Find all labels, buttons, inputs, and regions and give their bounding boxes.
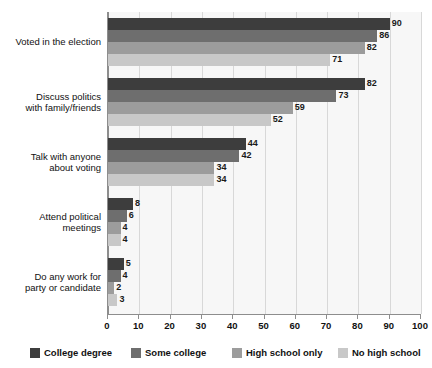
- legend-label: Some college: [145, 348, 206, 358]
- bar-row: 42: [108, 150, 421, 162]
- legend-swatch-icon: [131, 348, 141, 358]
- tick-mark-0: [107, 314, 108, 319]
- legend-label: High school only: [246, 348, 323, 358]
- plot-area: 90868271827359524442343486445423: [107, 12, 421, 314]
- bar: [108, 42, 365, 54]
- bar-row: 82: [108, 42, 421, 54]
- tick-label-40: 40: [219, 320, 245, 331]
- bar: [108, 222, 121, 234]
- bar-row: 90: [108, 18, 421, 30]
- bar-value-label: 2: [114, 281, 121, 293]
- tick-mark-50: [264, 314, 265, 319]
- tick-label-10: 10: [125, 320, 151, 331]
- tick-mark-40: [232, 314, 233, 319]
- tick-label-60: 60: [282, 320, 308, 331]
- category-label: Attend political meetings: [0, 211, 101, 234]
- tick-mark-20: [170, 314, 171, 319]
- bar-value-label: 73: [336, 89, 348, 101]
- bar-value-label: 82: [365, 77, 377, 89]
- tick-label-70: 70: [313, 320, 339, 331]
- bar-group: 8644: [108, 198, 421, 246]
- bar-row: 59: [108, 102, 421, 114]
- bar-value-label: 82: [365, 41, 377, 53]
- category-label: Do any work for party or candidate: [0, 271, 101, 294]
- tick-label-0: 0: [94, 320, 120, 331]
- tick-mark-100: [420, 314, 421, 319]
- bar-value-label: 8: [133, 197, 140, 209]
- bar: [108, 78, 365, 90]
- gridline-100: [421, 12, 422, 314]
- legend-item[interactable]: High school only: [232, 348, 323, 358]
- bar: [108, 162, 214, 174]
- bar-row: 5: [108, 258, 421, 270]
- bar-group: 82735952: [108, 78, 421, 126]
- bar-value-label: 44: [246, 137, 258, 149]
- bar-row: 82: [108, 78, 421, 90]
- tick-mark-60: [295, 314, 296, 319]
- bars-layer: 90868271827359524442343486445423: [108, 12, 421, 314]
- legend-swatch-icon: [232, 348, 242, 358]
- bar-value-label: 52: [271, 113, 283, 125]
- bar-value-label: 90: [390, 17, 402, 29]
- bar-group: 90868271: [108, 18, 421, 66]
- bar-value-label: 4: [121, 233, 128, 245]
- tick-label-100: 100: [407, 320, 432, 331]
- bar-value-label: 4: [121, 221, 128, 233]
- bar-value-label: 59: [293, 101, 305, 113]
- tick-mark-80: [357, 314, 358, 319]
- tick-mark-90: [389, 314, 390, 319]
- legend-swatch-icon: [338, 348, 348, 358]
- bar-row: 34: [108, 162, 421, 174]
- bar-row: 6: [108, 210, 421, 222]
- legend-label: No high school: [352, 348, 421, 358]
- bar-chart: 90868271827359524442343486445423 Voted i…: [0, 0, 432, 368]
- bar-value-label: 42: [239, 149, 251, 161]
- bar-row: 71: [108, 54, 421, 66]
- bar: [108, 30, 377, 42]
- legend: College degreeSome collegeHigh school on…: [0, 348, 432, 364]
- bar: [108, 18, 390, 30]
- tick-mark-70: [326, 314, 327, 319]
- bar-value-label: 34: [214, 161, 226, 173]
- bar-row: 2: [108, 282, 421, 294]
- legend-item[interactable]: College degree: [30, 348, 112, 358]
- bar: [108, 114, 271, 126]
- bar-row: 4: [108, 222, 421, 234]
- tick-label-30: 30: [188, 320, 214, 331]
- bar: [108, 102, 293, 114]
- bar-row: 44: [108, 138, 421, 150]
- bar-value-label: 34: [214, 173, 226, 185]
- bar-group: 44423434: [108, 138, 421, 186]
- bar: [108, 54, 330, 66]
- bar-value-label: 6: [127, 209, 134, 221]
- bar-value-label: 71: [330, 53, 342, 65]
- bar-value-label: 4: [121, 269, 128, 281]
- bar: [108, 234, 121, 246]
- legend-label: College degree: [44, 348, 112, 358]
- tick-mark-10: [138, 314, 139, 319]
- bar-group: 5423: [108, 258, 421, 306]
- legend-item[interactable]: Some college: [131, 348, 206, 358]
- tick-label-90: 90: [376, 320, 402, 331]
- tick-label-80: 80: [344, 320, 370, 331]
- category-label: Voted in the election: [0, 36, 101, 48]
- bar: [108, 138, 246, 150]
- legend-item[interactable]: No high school: [338, 348, 421, 358]
- bar-row: 4: [108, 234, 421, 246]
- bar-row: 34: [108, 174, 421, 186]
- bar-row: 8: [108, 198, 421, 210]
- category-label: Talk with anyone about voting: [0, 151, 101, 174]
- category-label: Discuss politics with family/friends: [0, 91, 101, 114]
- bar-value-label: 3: [117, 293, 124, 305]
- bar-value-label: 5: [124, 257, 131, 269]
- bar: [108, 294, 117, 306]
- bar-value-label: 86: [377, 29, 389, 41]
- tick-label-20: 20: [157, 320, 183, 331]
- bar-row: 3: [108, 294, 421, 306]
- bar-row: 52: [108, 114, 421, 126]
- bar: [108, 174, 214, 186]
- tick-mark-30: [201, 314, 202, 319]
- bar-row: 4: [108, 270, 421, 282]
- bar-row: 73: [108, 90, 421, 102]
- tick-label-50: 50: [251, 320, 277, 331]
